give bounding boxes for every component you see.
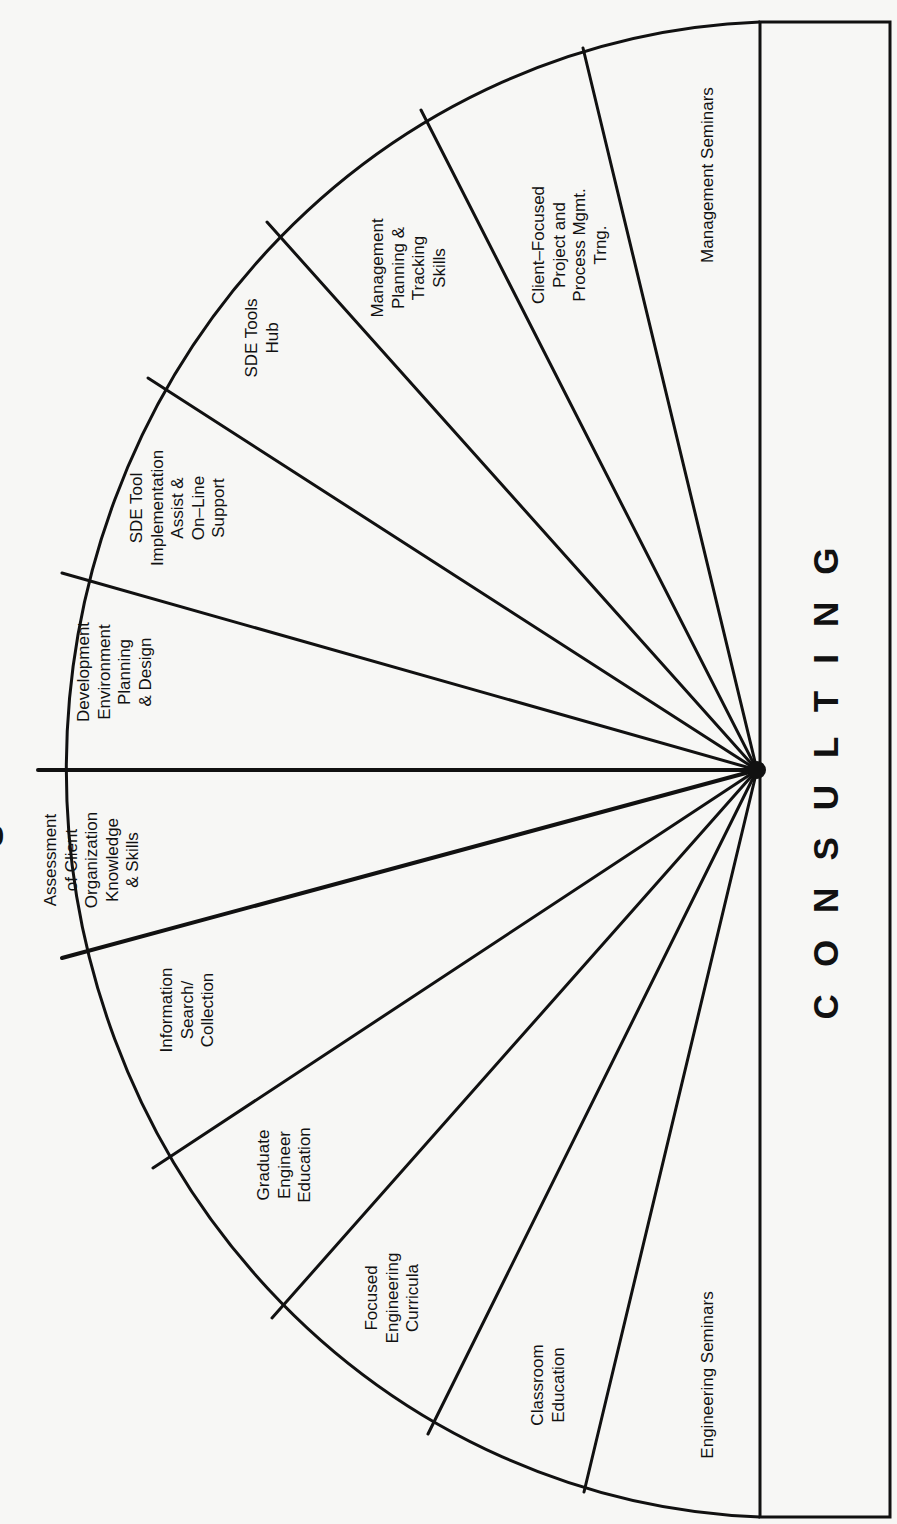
divider-line xyxy=(267,222,757,770)
divider-line xyxy=(272,770,757,1318)
segment-label-focused-engineering-curricula: Focused Engineering Curricula xyxy=(362,1253,424,1344)
divider-line xyxy=(62,573,757,770)
divider-line xyxy=(153,770,757,1168)
core-label-consulting: CONSULTING xyxy=(806,521,846,1020)
segment-label-engineering-seminars: Engineering Seminars xyxy=(698,1291,719,1458)
segment-label-classroom-education: Classroom Education xyxy=(528,1344,569,1425)
divider-line xyxy=(584,770,757,1492)
segment-label-management-planning-tracking: Management Planning & Tracking Skills xyxy=(368,218,450,317)
segment-label-graduate-engineer-education: Graduate Engineer Education xyxy=(254,1127,316,1203)
segment-label-client-focused-project-process: Client–Focused Project and Process Mgmt.… xyxy=(529,186,611,304)
segment-label-assessment-client-organization: Assessment of Client Organization Knowle… xyxy=(41,812,144,908)
segment-label-management-seminars: Management Seminars xyxy=(698,87,719,263)
divider-line xyxy=(62,770,757,958)
segment-label-information-search: Information Search/ Collection xyxy=(157,967,219,1052)
fan-hub xyxy=(748,761,766,779)
cropped-title-glyph: S xyxy=(0,825,11,848)
segment-label-sde-tools-hub: SDE Tools Hub xyxy=(242,298,283,377)
divider-line xyxy=(583,48,757,770)
segment-label-development-environment: Development Environment Planning & Desig… xyxy=(74,622,156,722)
segment-label-sde-tool-implementation: SDE Tool Implementation Assist & On–Line… xyxy=(127,450,230,566)
divider-line xyxy=(148,378,757,770)
